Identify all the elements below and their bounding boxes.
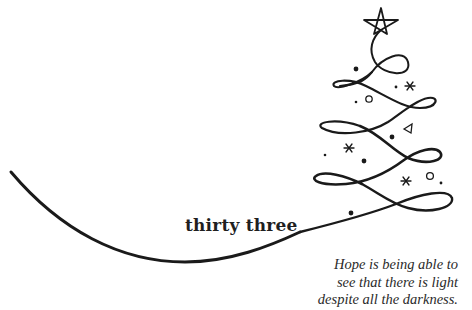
dot-ornament — [324, 154, 327, 157]
snowflake-icon — [401, 177, 411, 185]
dot-ornament — [395, 86, 398, 89]
quote-line: see that there is light — [218, 274, 458, 292]
circle-ornament — [427, 173, 434, 180]
snowflake-icon — [405, 82, 415, 90]
quote-line: Hope is being able to — [218, 256, 458, 274]
quote-line: despite all the darkness. — [218, 291, 458, 309]
dot-ornament — [355, 101, 358, 104]
chapter-title: thirty three — [185, 215, 297, 235]
snowflake-icon — [344, 144, 354, 152]
dot-ornament — [349, 211, 354, 216]
tree-swirl-tier1 — [320, 72, 435, 133]
dot-ornament — [362, 159, 367, 164]
tree-swirl-tier2 — [314, 126, 441, 184]
circle-ornament — [366, 96, 372, 102]
tree-swirl-tier3 — [300, 184, 452, 232]
dot-ornament — [390, 135, 395, 140]
quote-text: Hope is being able to see that there is … — [218, 256, 458, 309]
tree-swirl-top — [340, 30, 408, 86]
triangle-ornament — [404, 124, 412, 133]
dot-ornament — [354, 67, 359, 72]
dot-ornament — [440, 182, 443, 185]
